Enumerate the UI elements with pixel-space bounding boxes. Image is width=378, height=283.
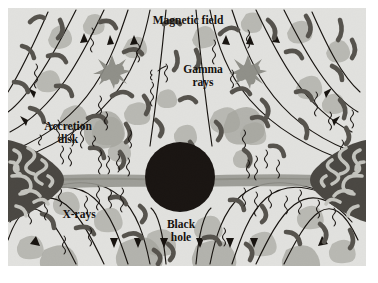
black-hole-diagram: Magnetic field Gamma rays Accretion disk… <box>0 0 378 283</box>
paper-grain-overlay <box>8 8 366 266</box>
